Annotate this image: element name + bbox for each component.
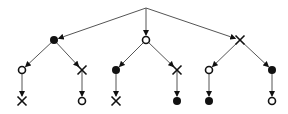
filled-circle-icon (173, 97, 181, 105)
edge-b-b2 (146, 40, 173, 67)
cross-icon (18, 97, 27, 106)
cross-icon (112, 97, 121, 106)
open-circle-icon (206, 67, 213, 74)
open-circle-icon (19, 67, 26, 74)
filled-circle-icon (268, 66, 276, 74)
open-circle-icon (79, 98, 86, 105)
tree-diagram (0, 0, 288, 114)
edge-root-a (59, 8, 146, 38)
cross-icon (236, 36, 245, 45)
edge-b-b1 (120, 40, 146, 66)
edge-root-c (146, 8, 235, 38)
filled-circle-icon (112, 66, 120, 74)
filled-circle-icon (205, 97, 213, 105)
edge-a-a1 (26, 40, 54, 67)
edge-a-a2 (54, 40, 79, 66)
filled-circle-icon (50, 36, 58, 44)
nodes-group (18, 36, 277, 106)
open-circle-icon (269, 98, 276, 105)
edges-group (22, 8, 272, 96)
tree-svg (0, 0, 288, 114)
open-circle-icon (143, 37, 150, 44)
